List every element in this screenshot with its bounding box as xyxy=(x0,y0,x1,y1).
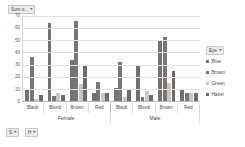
bar-hazel[interactable] xyxy=(172,71,176,101)
bar-green[interactable] xyxy=(56,93,60,102)
gridline xyxy=(23,89,200,90)
legend-label: Green xyxy=(211,81,224,86)
group-label: Female xyxy=(22,113,111,124)
bar-blue[interactable] xyxy=(180,89,184,101)
y-axis-tick-label: 20 xyxy=(15,75,20,80)
gridline xyxy=(23,77,200,78)
bar-green[interactable] xyxy=(167,83,171,101)
gridline xyxy=(23,16,200,17)
legend-field-label: Eye xyxy=(209,47,217,54)
axis-field-label-hair: H xyxy=(28,129,31,136)
bar-green[interactable] xyxy=(34,99,38,101)
legend-label: Brown xyxy=(211,70,225,75)
bar-hazel[interactable] xyxy=(127,89,131,101)
bar-blue[interactable] xyxy=(158,40,162,101)
pivot-chart: Sum o... ▾ 010203040506070 BlackBlondBro… xyxy=(0,0,245,147)
y-axis: 010203040506070 xyxy=(8,16,22,102)
bar-hazel[interactable] xyxy=(83,66,87,101)
bar-blue[interactable] xyxy=(92,93,96,102)
bar-green[interactable] xyxy=(101,93,105,102)
gridline xyxy=(23,40,200,41)
category-label: Brown xyxy=(156,103,178,113)
plot-grid xyxy=(22,16,200,102)
legend-label: Blue xyxy=(211,59,221,64)
y-axis-tick-label: 0 xyxy=(17,100,20,105)
group-axis-labels: FemaleMale xyxy=(22,113,200,124)
category-label: Black xyxy=(22,103,44,113)
y-axis-tick-label: 50 xyxy=(15,38,20,43)
legend-item[interactable]: Green xyxy=(206,78,244,89)
bar-green[interactable] xyxy=(189,93,193,102)
y-axis-tick-label: 40 xyxy=(15,51,20,56)
bar-hazel[interactable] xyxy=(39,95,43,101)
legend-item[interactable]: Hazel xyxy=(206,89,244,100)
legend-item[interactable]: Brown xyxy=(206,67,244,78)
category-label: Brown xyxy=(67,103,89,113)
category-label: Black xyxy=(111,103,133,113)
bar-green[interactable] xyxy=(79,84,83,101)
bar-brown[interactable] xyxy=(96,82,100,101)
chevron-down-icon: ▾ xyxy=(219,49,222,53)
legend-swatch-icon xyxy=(206,93,209,96)
legend-label: Hazel xyxy=(211,92,223,97)
bar-brown[interactable] xyxy=(185,93,189,102)
y-axis-tick-label: 70 xyxy=(15,14,20,19)
bar-brown[interactable] xyxy=(141,97,145,101)
category-label: Blond xyxy=(44,103,66,113)
bar-green[interactable] xyxy=(145,91,149,101)
plot-area: 010203040506070 xyxy=(8,16,200,102)
bar-blue[interactable] xyxy=(136,65,140,101)
legend-swatch-icon xyxy=(206,71,209,74)
chevron-down-icon: ▾ xyxy=(14,131,17,135)
gridline xyxy=(23,28,200,29)
category-axis-labels: BlackBlondBrownRedBlackBlondBrownRed xyxy=(22,103,200,113)
chart-legend: BlueBrownGreenHazel xyxy=(206,56,244,100)
bar-blue[interactable] xyxy=(25,90,29,101)
bar-brown[interactable] xyxy=(52,96,56,101)
legend-item[interactable]: Blue xyxy=(206,56,244,67)
bar-hazel[interactable] xyxy=(194,93,198,102)
gridline xyxy=(23,65,200,66)
bar-hazel[interactable] xyxy=(61,95,65,101)
value-field-button[interactable]: Sum o... ▾ xyxy=(8,5,35,14)
legend-swatch-icon xyxy=(206,60,209,63)
y-axis-tick-label: 60 xyxy=(15,26,20,31)
legend-swatch-icon xyxy=(206,82,209,85)
axis-field-button-hair[interactable]: H ▾ xyxy=(25,128,38,137)
axis-field-label-sex: S xyxy=(9,129,12,136)
axis-field-button-sex[interactable]: S ▾ xyxy=(6,128,19,137)
gridline xyxy=(23,52,200,53)
category-label: Red xyxy=(89,103,111,113)
y-axis-tick-label: 10 xyxy=(15,87,20,92)
group-label: Male xyxy=(111,113,200,124)
bar-brown[interactable] xyxy=(163,37,167,101)
bar-brown[interactable] xyxy=(118,62,122,101)
chevron-down-icon: ▾ xyxy=(33,131,36,135)
category-label: Blond xyxy=(133,103,155,113)
bar-hazel[interactable] xyxy=(105,93,109,102)
category-label: Red xyxy=(178,103,200,113)
bar-blue[interactable] xyxy=(70,60,74,101)
bar-hazel[interactable] xyxy=(149,95,153,101)
chevron-down-icon: ▾ xyxy=(30,8,33,12)
y-axis-tick-label: 30 xyxy=(15,63,20,68)
legend-field-button[interactable]: Eye ▾ xyxy=(206,46,224,55)
bar-green[interactable] xyxy=(123,97,127,101)
